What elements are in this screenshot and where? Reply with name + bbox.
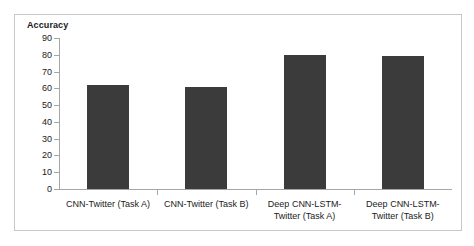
chart-screenshot: Accuracy 9080706050403020100 CNN-Twitter… bbox=[0, 0, 474, 246]
y-axis-tick-label: 50 bbox=[18, 101, 52, 110]
y-axis-tick-label: 10 bbox=[18, 168, 52, 177]
y-axis-tick bbox=[54, 172, 59, 173]
x-axis-category-label-line: Deep CNN-LSTM- bbox=[354, 198, 452, 210]
y-axis-tick-label: 20 bbox=[18, 151, 52, 160]
y-axis-tick bbox=[54, 88, 59, 89]
x-axis-category-label-line: Twitter (Task B) bbox=[354, 210, 452, 222]
y-axis-tick-label: 40 bbox=[18, 118, 52, 127]
bar bbox=[185, 87, 227, 189]
bar bbox=[382, 56, 424, 189]
y-axis-tick-label: 30 bbox=[18, 135, 52, 144]
y-axis-tick-label: 60 bbox=[18, 84, 52, 93]
x-axis-category-label: Deep CNN-LSTM-Twitter (Task A) bbox=[256, 198, 354, 222]
y-axis-tick-label: 0 bbox=[18, 185, 52, 194]
x-axis-category-label-line: Deep CNN-LSTM- bbox=[256, 198, 354, 210]
chart-frame: Accuracy 9080706050403020100 CNN-Twitter… bbox=[14, 14, 462, 231]
x-axis-category-label-line: Twitter (Task A) bbox=[256, 210, 354, 222]
y-axis-tick bbox=[54, 55, 59, 56]
x-axis-category-label-line: CNN-Twitter (Task A) bbox=[59, 198, 157, 210]
chart-title: Accuracy bbox=[27, 20, 68, 30]
x-axis-tick bbox=[256, 190, 257, 195]
y-axis-line bbox=[59, 38, 60, 190]
bar bbox=[284, 55, 326, 189]
y-axis-tick bbox=[54, 72, 59, 73]
x-axis-category-label: Deep CNN-LSTM-Twitter (Task B) bbox=[354, 198, 452, 222]
y-axis-tick bbox=[54, 105, 59, 106]
y-axis-tick-label: 70 bbox=[18, 68, 52, 77]
y-axis-tick bbox=[54, 155, 59, 156]
y-axis-tick-label: 90 bbox=[18, 34, 52, 43]
y-axis-tick bbox=[54, 139, 59, 140]
x-axis-category-label: CNN-Twitter (Task B) bbox=[157, 198, 255, 210]
y-axis-tick bbox=[54, 38, 59, 39]
bar bbox=[87, 85, 129, 189]
x-axis-tick bbox=[354, 190, 355, 195]
y-axis-tick bbox=[54, 122, 59, 123]
x-axis-category-label-line: CNN-Twitter (Task B) bbox=[157, 198, 255, 210]
y-axis-tick-label: 80 bbox=[18, 51, 52, 60]
x-axis-tick bbox=[157, 190, 158, 195]
y-axis-tick bbox=[54, 189, 59, 190]
x-axis-category-label: CNN-Twitter (Task A) bbox=[59, 198, 157, 210]
